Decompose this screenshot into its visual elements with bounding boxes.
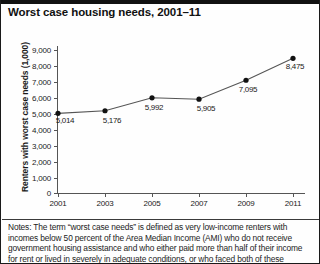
note-line: incomes below 50 percent of the Area Med… [8, 233, 316, 244]
data-point-label: 5,905 [184, 104, 228, 113]
data-point-label: 5,992 [132, 103, 176, 112]
note-line: Notes: The term “worst case needs” is de… [8, 222, 316, 233]
data-point-label: 8,475 [273, 62, 317, 71]
data-point-label: 5,176 [90, 116, 134, 125]
data-point-marker [243, 78, 248, 83]
note-line: for rent or lived in severely in adequat… [8, 254, 316, 264]
data-point-label: 7,095 [226, 85, 270, 94]
chart-figure: Worst case housing needs, 2001–11 Renter… [0, 0, 320, 264]
chart-notes: Notes: The term “worst case needs” is de… [8, 222, 316, 264]
data-point-label: 5,014 [43, 116, 87, 125]
notes-divider [2, 219, 320, 220]
data-point-marker [196, 97, 201, 102]
plot-area: Renters with worst case needs (1,000) 9,… [1, 0, 320, 220]
data-point-marker [149, 95, 154, 100]
data-point-marker [102, 108, 107, 113]
note-line: government housing assistance and who ei… [8, 243, 316, 254]
data-point-marker [290, 56, 295, 61]
